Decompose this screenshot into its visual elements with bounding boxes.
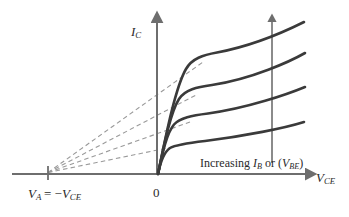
early-voltage-label: VA = −VCE	[28, 187, 81, 202]
early-voltage-lhs-symbol: V	[28, 186, 36, 201]
early-voltage-dashed-lines	[48, 62, 203, 173]
vbe-close-paren: )	[299, 156, 303, 170]
y-axis-label: IC	[131, 25, 141, 40]
early-voltage-rhs-subscript: CE	[70, 192, 81, 202]
dashed-extension-4	[48, 62, 203, 173]
increasing-text: Increasing	[200, 156, 250, 170]
increasing-ib-annotation: Increasing IB or (VBE)	[200, 157, 303, 171]
early-voltage-rhs-symbol: V	[62, 186, 70, 201]
vbe-subscript: BE	[289, 162, 299, 171]
or-text: or	[265, 156, 275, 170]
y-axis-label-subscript: C	[135, 30, 141, 40]
early-voltage-equals: = −	[44, 186, 62, 201]
bjt-output-characteristic-figure: IC VCE 0 VA = −VCE Increasing IB or (VBE…	[0, 0, 349, 217]
figure-canvas	[0, 0, 349, 217]
x-axis-label-symbol: V	[316, 170, 324, 185]
ib-subscript: B	[257, 162, 262, 171]
origin-label: 0	[153, 186, 160, 199]
x-axis-label: VCE	[316, 171, 335, 186]
x-axis-label-subscript: CE	[324, 176, 335, 186]
characteristic-curves	[158, 22, 305, 174]
